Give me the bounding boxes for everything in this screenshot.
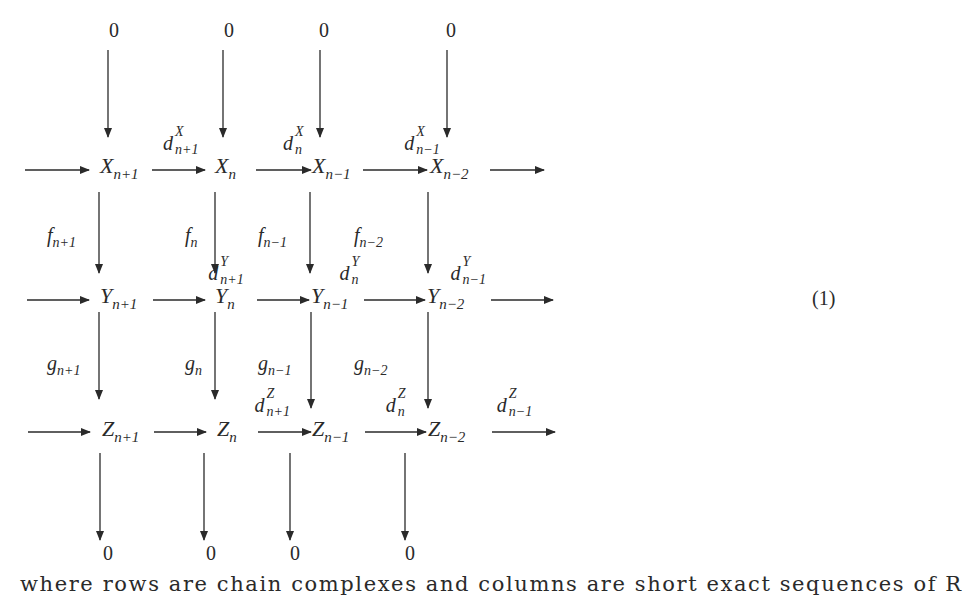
differential-dy-n-plus-1: dYn+1 bbox=[208, 263, 218, 283]
object-z-n-minus-2: Zn−2 bbox=[428, 418, 465, 445]
object-x-n-minus-2: Xn−2 bbox=[430, 155, 469, 182]
differential-dz-n-minus-1: dZn−1 bbox=[497, 395, 507, 415]
map-f-n: fn bbox=[185, 225, 198, 250]
map-f-n-plus-1: fn+1 bbox=[47, 225, 76, 250]
map-g-n-minus-1: gn−1 bbox=[258, 353, 291, 378]
differential-dx-n-minus-1: dXn−1 bbox=[404, 133, 414, 153]
map-f-n-minus-1: fn−1 bbox=[258, 225, 287, 250]
differential-dy-n: dYn bbox=[339, 263, 349, 283]
bottom-zero-2: 0 bbox=[206, 543, 216, 563]
object-z-n-minus-1: Zn−1 bbox=[312, 418, 349, 445]
bottom-zero-1: 0 bbox=[103, 543, 113, 563]
map-f-n-minus-2: fn−2 bbox=[354, 225, 383, 250]
bottom-zero-4: 0 bbox=[405, 543, 415, 563]
differential-dz-n: dZn bbox=[386, 395, 396, 415]
top-zero-1: 0 bbox=[109, 20, 119, 40]
object-z-n-plus-1: Zn+1 bbox=[102, 418, 139, 445]
map-g-n-minus-2: gn−2 bbox=[354, 353, 387, 378]
differential-dz-n-plus-1: dZn+1 bbox=[255, 395, 265, 415]
caption-text: where rows are chain complexes and colum… bbox=[20, 572, 963, 596]
object-y-n-minus-2: Yn−2 bbox=[427, 285, 464, 312]
map-g-n-plus-1: gn+1 bbox=[47, 353, 80, 378]
differential-dx-n-plus-1: dXn+1 bbox=[163, 133, 173, 153]
bottom-zero-3: 0 bbox=[290, 543, 300, 563]
object-y-n-minus-1: Yn−1 bbox=[311, 285, 348, 312]
object-y-n: Yn bbox=[215, 285, 235, 312]
differential-dy-n-minus-1: dYn−1 bbox=[450, 263, 460, 283]
map-g-n: gn bbox=[185, 353, 202, 378]
object-x-n: Xn bbox=[215, 155, 236, 182]
top-zero-2: 0 bbox=[224, 20, 234, 40]
object-x-n-minus-1: Xn−1 bbox=[312, 155, 351, 182]
equation-number: (1) bbox=[812, 288, 835, 308]
top-zero-4: 0 bbox=[446, 20, 456, 40]
object-z-n: Zn bbox=[217, 418, 237, 445]
top-zero-3: 0 bbox=[319, 20, 329, 40]
object-y-n-plus-1: Yn+1 bbox=[100, 285, 137, 312]
differential-dx-n: dXn bbox=[283, 133, 293, 153]
object-x-n-plus-1: Xn+1 bbox=[100, 155, 139, 182]
